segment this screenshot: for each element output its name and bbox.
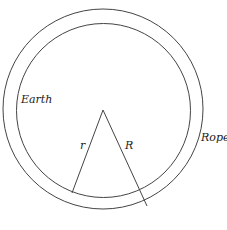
R-label: R	[124, 139, 133, 152]
radius-R-line	[103, 110, 147, 206]
earth-rope-diagram: Earth Rope r R	[0, 0, 227, 230]
radius-r-line	[72, 110, 103, 193]
earth-label: Earth	[20, 93, 52, 106]
r-label: r	[80, 139, 86, 152]
rope-circle	[3, 9, 203, 209]
rope-label: Rope	[200, 131, 227, 144]
